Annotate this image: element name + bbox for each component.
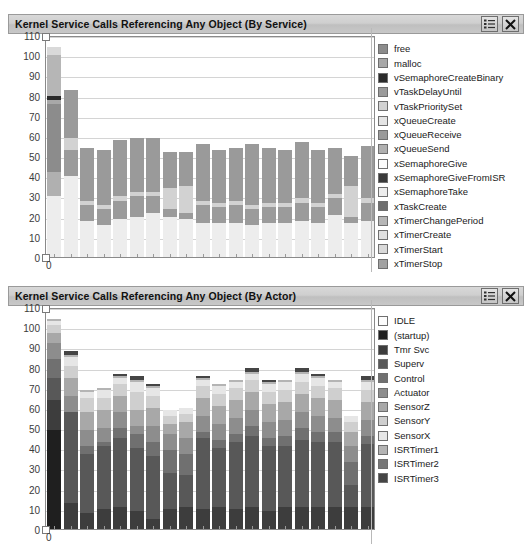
- legend-item[interactable]: SensorX: [378, 428, 439, 442]
- legend-label: xSemaphoreGiveFromISR: [394, 173, 505, 183]
- legend-item[interactable]: SensorY: [378, 414, 439, 428]
- close-button-service[interactable]: [502, 16, 519, 32]
- stacked-bar[interactable]: [229, 148, 243, 257]
- stacked-bar[interactable]: [113, 140, 127, 257]
- legend-item[interactable]: free: [378, 42, 505, 56]
- legend-item[interactable]: vSemaphoreCreateBinary: [378, 71, 505, 85]
- legend-item[interactable]: xTimerCreate: [378, 228, 505, 242]
- legend-item[interactable]: malloc: [378, 56, 505, 70]
- legend-item[interactable]: SensorZ: [378, 400, 439, 414]
- stacked-bar[interactable]: [130, 376, 144, 529]
- bar-segment: [245, 410, 259, 426]
- stacked-bar[interactable]: [179, 408, 193, 529]
- legend-item[interactable]: xTaskCreate: [378, 199, 505, 213]
- legend-item[interactable]: xSemaphoreGive: [378, 156, 505, 170]
- legend-item[interactable]: Actuator: [378, 385, 439, 399]
- legend-label: xTimerStop: [394, 259, 442, 269]
- stacked-bar[interactable]: [80, 148, 94, 257]
- bar-segment: [47, 172, 61, 196]
- bar-segment: [64, 351, 78, 355]
- legend-swatch: [378, 87, 388, 97]
- bar-segment: [311, 416, 325, 432]
- x-tick: [335, 526, 336, 529]
- stacked-bar[interactable]: [361, 146, 375, 257]
- stacked-bar[interactable]: [179, 152, 193, 257]
- stacked-bar[interactable]: [80, 390, 94, 529]
- bar-segment: [328, 148, 342, 194]
- legend-item[interactable]: (startup): [378, 328, 439, 342]
- close-icon: [505, 291, 516, 302]
- bar-segment: [295, 198, 309, 202]
- stacked-bar[interactable]: [163, 152, 177, 257]
- stacked-bar[interactable]: [295, 368, 309, 529]
- legend-item[interactable]: IDLE: [378, 314, 439, 328]
- stacked-bar[interactable]: [311, 150, 325, 257]
- legend-item[interactable]: xTimerStop: [378, 256, 505, 270]
- stacked-bar[interactable]: [113, 374, 127, 529]
- legend-item[interactable]: xSemaphoreTake: [378, 185, 505, 199]
- stacked-bar[interactable]: [130, 138, 144, 257]
- stacked-bar[interactable]: [163, 410, 177, 529]
- bar-segment: [146, 384, 160, 386]
- legend-toggle-button-service[interactable]: [481, 16, 498, 32]
- stacked-bar[interactable]: [295, 142, 309, 257]
- legend-item[interactable]: xTimerStart: [378, 242, 505, 256]
- bar-segment: [278, 402, 292, 420]
- legend-item[interactable]: ISRTimer1: [378, 443, 439, 457]
- legend-item[interactable]: Superv: [378, 357, 439, 371]
- stacked-bar[interactable]: [212, 150, 226, 257]
- legend-item[interactable]: Tmr Svc: [378, 343, 439, 357]
- stacked-bar[interactable]: [146, 138, 160, 257]
- close-button-actor[interactable]: [502, 288, 519, 304]
- bar-segment: [278, 382, 292, 390]
- stacked-bar[interactable]: [361, 376, 375, 529]
- stacked-bar[interactable]: [245, 368, 259, 529]
- bar-segment: [229, 400, 243, 418]
- legend-item[interactable]: xQueueReceive: [378, 128, 505, 142]
- stacked-bar[interactable]: [64, 90, 78, 258]
- bar-segment: [179, 152, 193, 186]
- y-tick-label: 110: [24, 303, 40, 314]
- stacked-bar[interactable]: [278, 380, 292, 529]
- legend-item[interactable]: xQueueSend: [378, 142, 505, 156]
- stacked-bar[interactable]: [97, 150, 111, 257]
- stacked-bar[interactable]: [344, 416, 358, 529]
- stacked-bar[interactable]: [47, 319, 61, 529]
- stacked-bar[interactable]: [262, 380, 276, 529]
- legend-item[interactable]: Control: [378, 371, 439, 385]
- x-tick: [186, 526, 187, 529]
- y-tick-label: 0: [34, 525, 40, 536]
- legend-item[interactable]: vTaskPrioritySet: [378, 99, 505, 113]
- legend-label: xTaskCreate: [394, 202, 447, 212]
- bar-segment: [344, 485, 358, 507]
- legend-item[interactable]: xQueueCreate: [378, 113, 505, 127]
- stacked-bar[interactable]: [146, 384, 160, 529]
- legend-item[interactable]: ISRTimer2: [378, 457, 439, 471]
- bar-segment: [262, 382, 276, 384]
- stacked-bar[interactable]: [97, 388, 111, 529]
- stacked-bar[interactable]: [328, 380, 342, 529]
- stacked-bar[interactable]: [344, 156, 358, 257]
- bar-segment: [97, 390, 111, 398]
- stacked-bar[interactable]: [245, 144, 259, 257]
- stacked-bar[interactable]: [262, 148, 276, 257]
- stacked-bar[interactable]: [328, 148, 342, 257]
- stacked-bar[interactable]: [311, 374, 325, 529]
- stacked-bar[interactable]: [196, 376, 210, 529]
- bar-segment: [311, 398, 325, 416]
- legend-item[interactable]: xSemaphoreGiveFromISR: [378, 171, 505, 185]
- legend-item[interactable]: xTimerChangePeriod: [378, 214, 505, 228]
- stacked-bar[interactable]: [278, 150, 292, 257]
- legend-swatch: [378, 473, 388, 483]
- stacked-bar[interactable]: [212, 384, 226, 529]
- legend-item[interactable]: ISRTimer3: [378, 471, 439, 485]
- stacked-bar[interactable]: [196, 144, 210, 257]
- bar-segment: [47, 104, 61, 173]
- stacked-bar[interactable]: [229, 380, 243, 529]
- y-axis-top-marker-actor: [42, 305, 50, 313]
- stacked-bar[interactable]: [64, 351, 78, 529]
- legend-toggle-button-actor[interactable]: [481, 288, 498, 304]
- stacked-bar[interactable]: [47, 47, 61, 257]
- bar-segment: [311, 432, 325, 442]
- legend-item[interactable]: vTaskDelayUntil: [378, 85, 505, 99]
